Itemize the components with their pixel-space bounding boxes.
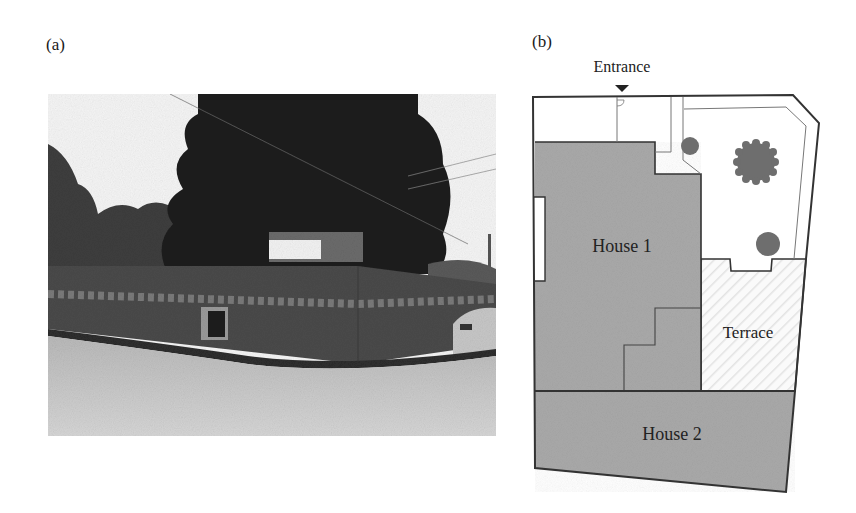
house-1-area <box>535 142 701 391</box>
panel-a-label: (a) <box>46 35 65 55</box>
terrace-area <box>701 259 806 391</box>
triangle-down-icon <box>615 85 629 92</box>
house-2-area <box>535 391 795 492</box>
entrance-label: Entrance <box>594 58 651 75</box>
terrace-label: Terrace <box>723 323 774 342</box>
panel-b-label: (b) <box>532 32 552 52</box>
tree-small-icon <box>756 232 780 256</box>
house-2-label: House 2 <box>642 424 702 444</box>
tree-large-icon <box>733 139 779 185</box>
site-photo <box>48 94 496 436</box>
house-1-label: House 1 <box>592 236 652 256</box>
tree-small-icon <box>681 137 699 155</box>
